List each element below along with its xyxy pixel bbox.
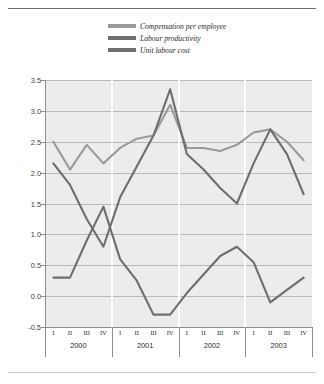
x-axis-quarter-label: II: [135, 329, 139, 336]
legend-swatch-icon: [108, 36, 136, 39]
legend-label: Unit labour cost: [140, 46, 190, 55]
year-separator: [245, 327, 246, 357]
x-axis-year-label: 2001: [137, 341, 153, 350]
x-axis-quarter-label: IV: [167, 329, 174, 336]
x-axis-quarter-label: IV: [100, 329, 107, 336]
x-axis-quarter-label: III: [83, 329, 90, 336]
legend-label: Compensation per employee: [140, 22, 226, 31]
x-axis-quarter-label: III: [150, 329, 157, 336]
x-axis-quarter-label: IV: [233, 329, 240, 336]
chart-legend: Compensation per employeeLabour producti…: [0, 20, 324, 56]
x-axis-quarter-label: II: [201, 329, 205, 336]
y-axis-tick-label: 0.0: [31, 292, 41, 301]
legend-item-compensation_per_employee: Compensation per employee: [0, 20, 324, 32]
x-axis-quarter-label: I: [119, 329, 121, 336]
x-axis-year-label: 2002: [204, 341, 220, 350]
x-axis: IIIIIIIVIIIIIIIVIIIIIIIVIIIIIIIV20002001…: [45, 327, 312, 367]
y-axis-tick-label: 1.5: [31, 199, 41, 208]
y-axis-tick-label: 3.5: [31, 76, 41, 85]
bottom-divider: [8, 372, 316, 373]
x-axis-quarter-label: III: [284, 329, 291, 336]
x-axis-quarter-label: I: [252, 329, 254, 336]
legend-swatch-icon: [108, 24, 136, 27]
x-axis-quarter-label: I: [186, 329, 188, 336]
y-axis-tick-label: 2.5: [31, 137, 41, 146]
x-axis-quarter-label: II: [68, 329, 72, 336]
y-axis-labels: 3.53.02.52.01.51.00.50.0-0.5: [0, 60, 45, 360]
legend-item-unit_labour_cost: Unit labour cost: [0, 44, 324, 56]
x-axis-year-label: 2003: [270, 341, 286, 350]
year-separator: [112, 327, 113, 357]
series-lines: [45, 80, 312, 327]
series-line-unit-labour-cost: [53, 89, 303, 246]
year-separator: [312, 327, 313, 357]
year-separator: [179, 327, 180, 357]
chart-title-strip: Chart 3 Changes in unit labour costs, co…: [0, 0, 324, 7]
x-axis-year-label: 2000: [70, 341, 86, 350]
y-axis-tick-label: 3.0: [31, 106, 41, 115]
x-axis-quarter-label: II: [268, 329, 272, 336]
y-axis-tick-label: -0.5: [28, 323, 41, 332]
y-axis-tick-label: 2.0: [31, 168, 41, 177]
legend-swatch-icon: [108, 48, 136, 51]
y-axis-tick-label: 1.0: [31, 230, 41, 239]
legend-label: Labour productivity: [140, 34, 201, 43]
series-line-labour-productivity: [53, 207, 303, 315]
title-divider: [8, 8, 316, 9]
legend-item-labour_productivity: Labour productivity: [0, 32, 324, 44]
y-axis-tick-label: 0.5: [31, 261, 41, 270]
x-axis-quarter-label: IV: [300, 329, 307, 336]
x-axis-quarter-label: III: [217, 329, 224, 336]
chart-area: 3.53.02.52.01.51.00.50.0-0.5 IIIIIIIVIII…: [0, 60, 324, 360]
x-axis-quarter-label: I: [52, 329, 54, 336]
year-separator: [45, 327, 46, 357]
chart-page: Chart 3 Changes in unit labour costs, co…: [0, 0, 324, 384]
